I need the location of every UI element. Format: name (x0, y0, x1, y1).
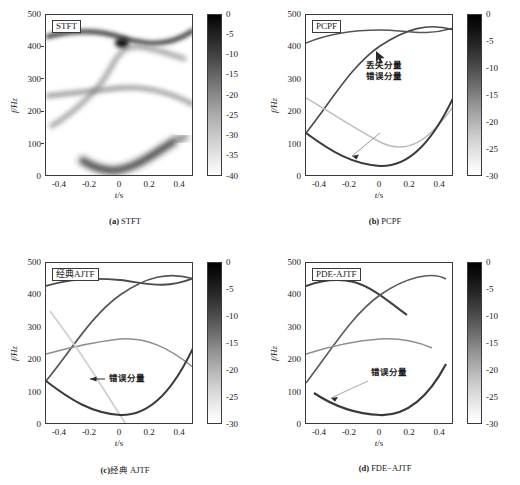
annotation-d: 错误分量 (371, 367, 407, 378)
caption-a: (a) STFT (40, 216, 210, 226)
a-cbtick-3: -15 (226, 69, 238, 79)
a-ytick-300: 300 (15, 74, 41, 84)
caption-b: (b) PCPF (300, 216, 470, 226)
d-xaxis-label: t/s (349, 438, 409, 448)
panel-d-label: PDE-AJTF (312, 268, 361, 281)
a-cbtick-6: -30 (226, 130, 238, 140)
b-cbtick-0: 0 (486, 9, 491, 19)
b-ytick-0: 0 (275, 171, 301, 181)
panel-c-classic-ajtf: 经典AJTF 错误分量 500 400 300 200 100 0 -0.4 -… (0, 248, 260, 485)
a-yaxis-label: f/Hz (9, 98, 19, 113)
a-xaxis-label: t/s (89, 190, 149, 200)
panel-a-stft: STFT 500 400 300 200 100 0 -0.4 -0.2 0 0… (0, 0, 260, 230)
c-cbtick-4: -20 (226, 365, 238, 375)
a-ytick-0: 0 (15, 171, 41, 181)
panel-b-pcpf: PCPF 丢失分量 错误分量 500 400 300 200 100 0 -0.… (260, 0, 520, 230)
caption-c: (c)经典 AJTF (40, 463, 210, 475)
b-cbtick-2: -10 (486, 63, 498, 73)
c-cbtick-0: 0 (226, 257, 231, 267)
b-cbtick-3: -15 (486, 90, 498, 100)
panel-a-label: STFT (52, 20, 81, 33)
c-ytick-300: 300 (15, 322, 41, 332)
d-cbtick-2: -10 (486, 311, 498, 321)
annotation-b: 丢失分量 错误分量 (366, 60, 402, 83)
plot-area-c: 经典AJTF 错误分量 (45, 262, 193, 424)
a-xtick-5: 0.4 (166, 179, 192, 189)
d-cbtick-4: -20 (486, 365, 498, 375)
d-cbtick-0: 0 (486, 257, 491, 267)
b-xaxis-label: t/s (349, 190, 409, 200)
d-ytick-400: 400 (275, 289, 301, 299)
caption-d: (d) FDE−AJTF (300, 463, 470, 473)
d-xtick-4: 0.2 (396, 427, 422, 437)
d-cbtick-5: -25 (486, 392, 498, 402)
d-cbtick-6: -30 (486, 419, 498, 429)
a-xtick-2: -0.2 (76, 179, 102, 189)
c-cbtick-5: -25 (226, 392, 238, 402)
c-ytick-500: 500 (15, 257, 41, 267)
c-xtick-2: -0.2 (76, 427, 102, 437)
d-colorbar (467, 262, 482, 424)
a-cbtick-7: -35 (226, 150, 238, 160)
d-ytick-0: 0 (275, 419, 301, 429)
a-xtick-4: 0.2 (136, 179, 162, 189)
c-cbtick-3: -15 (226, 338, 238, 348)
panel-b-label: PCPF (312, 20, 341, 33)
a-xtick-3: 0 (106, 179, 132, 189)
d-xtick-5: 0.4 (426, 427, 452, 437)
b-ytick-300: 300 (275, 74, 301, 84)
a-cbtick-8: -40 (226, 171, 238, 181)
b-xtick-2: -0.2 (336, 179, 362, 189)
c-ytick-100: 100 (15, 387, 41, 397)
c-cbtick-1: -5 (226, 284, 234, 294)
plot-area-d: PDE-AJTF 错误分量 (305, 262, 453, 424)
c-colorbar (207, 262, 222, 424)
plot-area-a: STFT (45, 14, 193, 176)
c-xaxis-label: t/s (89, 438, 149, 448)
c-cbtick-6: -30 (226, 419, 238, 429)
c-cbtick-2: -10 (226, 311, 238, 321)
stft-spectrogram (46, 15, 193, 176)
a-xtick-1: -0.4 (46, 179, 72, 189)
panel-d-fde-ajtf: PDE-AJTF 错误分量 500 400 300 200 100 0 -0.4… (260, 248, 520, 485)
a-cbtick-5: -25 (226, 110, 238, 120)
b-ytick-100: 100 (275, 139, 301, 149)
plot-area-b: PCPF 丢失分量 错误分量 (305, 14, 453, 176)
b-colorbar (467, 14, 482, 176)
d-xtick-1: -0.4 (306, 427, 332, 437)
b-xtick-4: 0.2 (396, 179, 422, 189)
b-yaxis-label: f/Hz (269, 98, 279, 113)
a-ytick-400: 400 (15, 41, 41, 51)
a-ytick-100: 100 (15, 139, 41, 149)
c-xtick-1: -0.4 (46, 427, 72, 437)
c-ytick-0: 0 (15, 419, 41, 429)
a-cbtick-1: -5 (226, 29, 234, 39)
b-xtick-1: -0.4 (306, 179, 332, 189)
c-ytick-400: 400 (15, 289, 41, 299)
d-ytick-300: 300 (275, 322, 301, 332)
b-ytick-400: 400 (275, 41, 301, 51)
a-cbtick-2: -10 (226, 49, 238, 59)
b-cbtick-4: -20 (486, 117, 498, 127)
d-ytick-100: 100 (275, 387, 301, 397)
b-xtick-3: 0 (366, 179, 392, 189)
c-xtick-4: 0.2 (136, 427, 162, 437)
d-cbtick-3: -15 (486, 338, 498, 348)
fde-ajtf-curves (306, 263, 453, 424)
c-xtick-5: 0.4 (166, 427, 192, 437)
d-cbtick-1: -5 (486, 284, 494, 294)
b-xtick-5: 0.4 (426, 179, 452, 189)
annotation-c: 错误分量 (109, 373, 145, 384)
c-yaxis-label: f/Hz (9, 346, 19, 361)
panel-c-label: 经典AJTF (52, 268, 99, 281)
d-xtick-2: -0.2 (336, 427, 362, 437)
d-ytick-500: 500 (275, 257, 301, 267)
a-colorbar (207, 14, 222, 176)
c-xtick-3: 0 (106, 427, 132, 437)
d-yaxis-label: f/Hz (269, 346, 279, 361)
classic-ajtf-curves (46, 263, 193, 424)
b-cbtick-1: -5 (486, 36, 494, 46)
figure-root: STFT 500 400 300 200 100 0 -0.4 -0.2 0 0… (0, 0, 520, 485)
a-cbtick-4: -20 (226, 90, 238, 100)
d-xtick-3: 0 (366, 427, 392, 437)
